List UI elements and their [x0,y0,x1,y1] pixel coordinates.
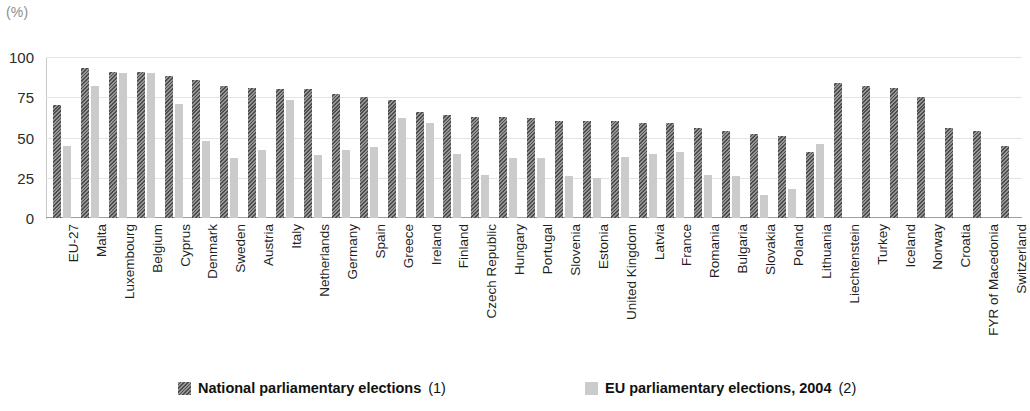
y-tick-label-75: 75 [17,89,34,106]
x-tick-label: Poland [791,224,806,374]
x-tick-label: Netherlands [317,224,332,374]
bar-national [332,94,340,218]
bar-eu [258,150,266,218]
bar-group [440,57,468,218]
x-tick-label: Turkey [875,224,890,374]
x-tick-label: Liechtenstein [847,224,862,374]
legend-item-eu[interactable]: EU parliamentary elections, 2004 (2) [585,380,856,396]
bar-national [1001,146,1009,218]
x-tick-label: Romania [707,224,722,374]
bar-eu [342,150,350,218]
bar-national [694,128,702,218]
bar-group [747,57,775,218]
bar-national [806,152,814,218]
bar-national [471,117,479,218]
bar-group [301,57,329,218]
bar-national [527,118,535,218]
bar-national [443,115,451,218]
bar-national [945,128,953,218]
bar-group [914,57,942,218]
bar-national [53,105,61,218]
x-tick-label: Belgium [150,224,165,374]
x-tick-label: Luxembourg [122,224,137,374]
x-tick-label: Iceland [903,224,918,374]
bar-group [106,57,134,218]
bar-group [691,57,719,218]
bar-national [973,131,981,218]
x-tick-label: Slovakia [763,224,778,374]
x-tick-label: Bulgaria [735,224,750,374]
bar-national [81,68,89,218]
x-tick-label: Hungary [512,224,527,374]
bar-group [831,57,859,218]
bar-eu [649,154,657,218]
y-axis-tick-labels: 0255075100 [0,0,42,411]
bar-national [304,89,312,218]
bar-group [719,57,747,218]
x-tick-label: Cyprus [178,224,193,374]
bar-group [78,57,106,218]
bar-eu [398,118,406,218]
x-tick-label: Lithuania [819,224,834,374]
legend-swatch-eu-icon [585,382,598,395]
bar-group [942,57,970,218]
bar-national [666,123,674,218]
x-tick-label: Switzerland [1014,224,1029,374]
bar-group [608,57,636,218]
legend-note-national: (1) [428,380,446,396]
bar-eu [788,189,796,218]
legend-label-eu: EU parliamentary elections, 2004 [605,380,831,396]
bar-group [524,57,552,218]
bar-eu [426,123,434,218]
bar-group [970,57,998,218]
y-tick-label-100: 100 [9,49,34,66]
bar-national [917,97,925,218]
bar-group [663,57,691,218]
bar-eu [732,176,740,218]
x-tick-label: Estonia [596,224,611,374]
bar-national [360,97,368,218]
x-tick-label: Latvia [652,224,667,374]
bar-group [859,57,887,218]
bar-eu [119,73,127,218]
bar-group [887,57,915,218]
x-tick-label: France [679,224,694,374]
x-tick-label: EU-27 [66,224,81,374]
bar-group [998,57,1026,218]
x-tick-label: Slovenia [568,224,583,374]
x-tick-label: Portugal [540,224,555,374]
bar-eu [314,155,322,218]
bar-eu [760,195,768,218]
y-tick-label-25: 25 [17,169,34,186]
bar-group [468,57,496,218]
bar-eu [63,146,71,218]
bar-national [862,86,870,218]
bar-eu [676,152,684,218]
bar-group [217,57,245,218]
legend-note-eu: (2) [838,380,856,396]
bar-national [165,76,173,218]
bar-eu [370,147,378,218]
bar-national [611,121,619,218]
bar-national [192,80,200,218]
x-tick-label: United Kingdom [624,224,639,374]
legend-item-national[interactable]: National parliamentary elections (1) [178,380,446,396]
bar-group [162,57,190,218]
x-tick-label: Czech Republic [484,224,499,374]
bar-national [416,112,424,218]
bar-group [496,57,524,218]
x-tick-label: Croatia [958,224,973,374]
bar-group [636,57,664,218]
x-tick-label: Austria [261,224,276,374]
bar-national [639,123,647,218]
bar-eu [91,86,99,218]
x-tick-label: Spain [373,224,388,374]
bar-group [413,57,441,218]
x-tick-label: Norway [930,224,945,374]
bar-eu [509,158,517,218]
bar-national [555,121,563,218]
bar-group [552,57,580,218]
bar-national [722,131,730,218]
chart-root: (%) 0255075100 EU-27MaltaLuxembourgBelgi… [0,0,1030,411]
x-tick-label: Italy [289,224,304,374]
